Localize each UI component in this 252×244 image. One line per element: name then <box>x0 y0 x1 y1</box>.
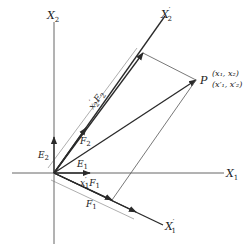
point-p-coords-original: (x₁, x₂) <box>212 69 239 78</box>
e2-label: E2 <box>37 150 49 162</box>
projection-line-x1p <box>112 80 196 200</box>
coordinate-diagram: X2 X1 X′2 X′1 E2 E1 F2 F1 x′1F1 x′2F2 P … <box>0 0 252 244</box>
x2-prime-axis-label: X′2 <box>160 6 172 23</box>
f2-label: F2 <box>79 136 91 148</box>
e1-label: E1 <box>76 159 88 171</box>
x1-prime-axis-label: X′1 <box>164 218 176 235</box>
x1-axis-label: X1 <box>225 167 238 182</box>
position-vector-p <box>54 80 196 173</box>
x1f1-label: x′1F1 <box>80 176 100 190</box>
point-p-label: P <box>199 74 208 87</box>
projection-line-x2p <box>143 53 196 80</box>
point-p-coords-primed: (x′₁, x′₂) <box>212 80 242 89</box>
x2-axis-label: X2 <box>46 9 59 24</box>
